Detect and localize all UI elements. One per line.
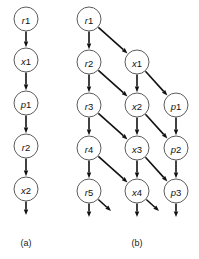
node-label-index: 4 <box>137 186 142 197</box>
node-label-index: 3 <box>137 143 142 154</box>
arrowhead <box>87 87 91 93</box>
edge-b-x2-to-b-p2 <box>145 114 167 138</box>
graph-node[interactable]: r3 <box>77 93 101 117</box>
arrowhead <box>87 211 91 217</box>
graph-node[interactable]: x4 <box>125 179 149 203</box>
node-label: x1 <box>20 55 31 66</box>
node-label-index: 3 <box>88 100 93 111</box>
graph-node[interactable]: r4 <box>77 136 101 160</box>
dangling-edge-from-b-x4 <box>146 199 159 211</box>
dangling-edge-from-b-r5 <box>87 204 91 217</box>
graph-node[interactable]: r1 <box>14 7 38 31</box>
node-label-index: 1 <box>88 14 93 25</box>
node-label-index: 2 <box>137 100 142 111</box>
node-label: r2 <box>22 141 30 152</box>
node-label: r5 <box>85 186 93 197</box>
graph-node[interactable]: p2 <box>164 136 188 160</box>
node-label-index: 1 <box>25 14 30 25</box>
arrowhead <box>174 211 178 217</box>
node-label: p1 <box>170 100 182 111</box>
node-label: r3 <box>85 100 93 111</box>
edge-b-r3-to-b-x3 <box>98 113 127 139</box>
graph-node[interactable]: r2 <box>14 134 38 158</box>
arrowhead <box>87 44 91 50</box>
panel-caption-a: (a) <box>21 238 32 248</box>
edge-b-x2-to-b-x3 <box>135 118 139 136</box>
edge-b-r1-to-b-r2 <box>87 32 91 50</box>
arrowhead <box>135 130 139 136</box>
arrowhead <box>24 128 28 134</box>
graph-node[interactable]: p1 <box>164 93 188 117</box>
edge-b-r3-to-b-r4 <box>87 118 91 136</box>
node-label-index: 1 <box>26 55 31 66</box>
captions-layer: (a)(b) <box>21 238 143 248</box>
node-label: x1 <box>131 57 142 68</box>
edge-b-p2-to-b-p3 <box>174 161 178 179</box>
edge-b-r2-to-b-r3 <box>87 75 91 93</box>
node-label: x4 <box>131 186 142 197</box>
arrowhead <box>87 173 91 179</box>
node-label: x2 <box>20 184 31 195</box>
figure-root: r1x1p1r2x2r1r2x1r3x2p1r4x3p2r5x4p3 (a)(b… <box>0 0 199 259</box>
node-label-index: 2 <box>26 184 31 195</box>
graph-node[interactable]: x3 <box>125 136 149 160</box>
node-label: r2 <box>85 57 93 68</box>
edge-b-x1-to-b-x2 <box>135 75 139 93</box>
node-label-index: 1 <box>137 57 142 68</box>
arrowhead <box>87 130 91 136</box>
arrowhead <box>24 209 28 215</box>
node-label: x2 <box>131 100 142 111</box>
edge-a-r1-to-a-x1 <box>24 32 28 48</box>
arrowhead <box>24 42 28 48</box>
node-label-index: 1 <box>176 100 181 111</box>
dangling-edge-from-b-r5 <box>98 199 111 211</box>
edge-a-p1-to-a-r2 <box>24 116 28 134</box>
arrowhead <box>135 173 139 179</box>
edge-b-p1-to-b-p2 <box>174 118 178 136</box>
edge-b-r4-to-b-x4 <box>98 156 127 182</box>
node-label: p1 <box>20 98 32 109</box>
node-label: r1 <box>85 14 93 25</box>
node-label: p3 <box>170 186 182 197</box>
dangling-edge-from-b-x4 <box>135 204 139 217</box>
edge-b-x3-to-b-x4 <box>135 161 139 179</box>
node-label-index: 2 <box>88 57 93 68</box>
edge-b-r1-to-b-x1 <box>98 27 127 53</box>
node-label-index: 5 <box>88 186 93 197</box>
node-label-index: 4 <box>88 143 93 154</box>
node-label: x3 <box>131 143 142 154</box>
arrowhead <box>174 130 178 136</box>
arrowhead <box>24 171 28 177</box>
edge-a-r2-to-a-x2 <box>24 159 28 177</box>
graph-node[interactable]: x2 <box>14 177 38 201</box>
arrowhead <box>174 173 178 179</box>
node-label: r4 <box>85 143 93 154</box>
node-label: r1 <box>22 14 30 25</box>
dangling-edge-from-a-x2 <box>24 202 28 215</box>
graph-node[interactable]: r1 <box>77 7 101 31</box>
edge-b-r2-to-b-x2 <box>98 70 127 96</box>
graph-node[interactable]: p1 <box>14 91 38 115</box>
graph-node[interactable]: x1 <box>125 50 149 74</box>
node-label-index: 1 <box>26 98 31 109</box>
node-label-index: 2 <box>25 141 30 152</box>
graph-node[interactable]: r2 <box>77 50 101 74</box>
node-label-index: 2 <box>176 143 181 154</box>
graph-node[interactable]: p3 <box>164 179 188 203</box>
edge-b-x1-to-b-p1 <box>145 71 167 95</box>
node-label: p2 <box>170 143 182 154</box>
panel-caption-b: (b) <box>132 238 143 248</box>
graph-node[interactable]: x2 <box>125 93 149 117</box>
arrowhead <box>135 211 139 217</box>
edge-b-r4-to-b-r5 <box>87 161 91 179</box>
arrowhead <box>135 87 139 93</box>
nodes-layer: r1x1p1r2x2r1r2x1r3x2p1r4x3p2r5x4p3 <box>14 7 188 203</box>
dangling-edge-from-b-p3 <box>174 204 178 217</box>
graph-node[interactable]: x1 <box>14 48 38 72</box>
dependence-graph-figure: r1x1p1r2x2r1r2x1r3x2p1r4x3p2r5x4p3 (a)(b… <box>0 0 199 259</box>
arrowhead <box>24 85 28 91</box>
graph-node[interactable]: r5 <box>77 179 101 203</box>
node-label-index: 3 <box>176 186 181 197</box>
edge-a-x1-to-a-p1 <box>24 73 28 91</box>
edge-b-x3-to-b-p3 <box>145 157 167 181</box>
